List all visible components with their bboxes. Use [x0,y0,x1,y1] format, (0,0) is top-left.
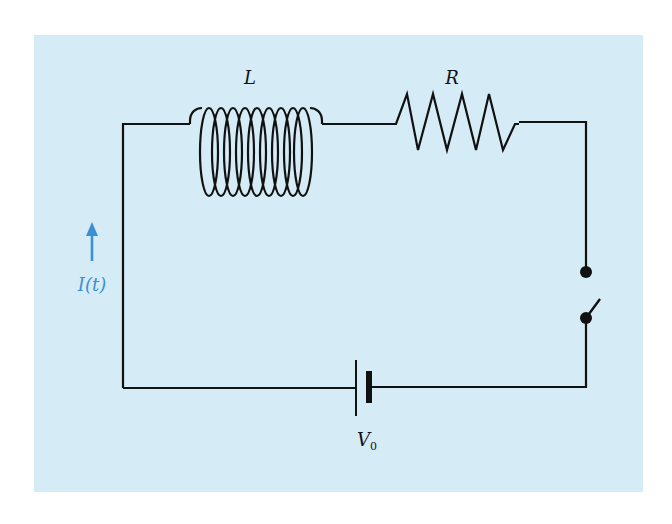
resistor-label: R [444,67,459,88]
switch-contact-bottom [580,312,592,324]
switch-contact-top [580,266,592,278]
circuit-diagram: L R I(t) V0 [0,0,672,524]
current-label: I(t) [77,274,106,295]
battery-plate-short [366,371,372,403]
inductor-label: L [243,67,256,88]
background-panel [34,35,643,492]
battery-voltage-subscript: 0 [370,440,377,453]
